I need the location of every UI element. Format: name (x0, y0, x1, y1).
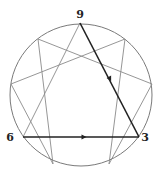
arrow-icon (82, 134, 87, 139)
point-label-3: 3 (141, 131, 149, 144)
direction-arrows (82, 76, 112, 140)
line-9-6 (23, 23, 80, 137)
enneagram-diagram: 9 6 3 (0, 0, 161, 180)
line-5-7 (11, 84, 53, 164)
point-label-9: 9 (76, 8, 84, 21)
line-2-8 (38, 39, 152, 84)
point-label-6: 6 (6, 131, 14, 144)
line-1-4 (109, 39, 125, 164)
outer-circle (10, 24, 152, 166)
